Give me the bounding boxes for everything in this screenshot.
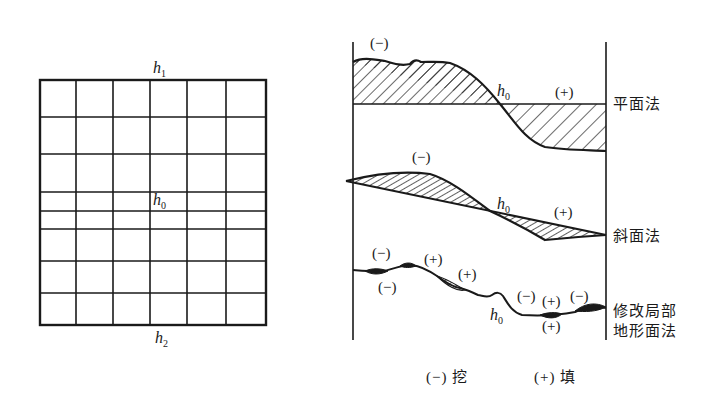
subscript: 0	[498, 315, 503, 326]
local-method-label-line1: 修改局部	[613, 304, 677, 319]
subscript: 1	[161, 68, 166, 79]
plane-cut-sign: (−)	[370, 36, 388, 51]
local-h0-label: h0	[490, 307, 503, 326]
local-sign-2: (−)	[378, 280, 396, 295]
slope-cut-sign: (−)	[412, 150, 430, 165]
local-sign-7: (−)	[570, 289, 588, 304]
local-sign-4: (+)	[458, 267, 476, 282]
h-symbol: h	[497, 82, 505, 99]
subscript: 2	[163, 338, 168, 349]
h-symbol: h	[153, 191, 161, 208]
slope-method-label: 斜面法	[613, 229, 661, 244]
local-sign-5: (−)	[517, 289, 535, 304]
legend-fill: (+) 填	[534, 370, 576, 385]
subscript: 0	[161, 200, 166, 211]
local-sign-3: (+)	[424, 252, 442, 267]
plane-method-profile	[353, 59, 606, 151]
local-sign-1: (−)	[372, 246, 390, 261]
h-symbol: h	[155, 329, 163, 346]
plane-fill-sign: (+)	[555, 85, 573, 100]
legend-cut: (−) 挖	[426, 370, 468, 385]
grid-label-h1: h1	[153, 60, 166, 79]
diagram-canvas	[0, 0, 727, 411]
grid-label-h2: h2	[155, 330, 168, 349]
local-sign-8: (+)	[542, 319, 560, 334]
slope-fill-sign: (+)	[554, 205, 572, 220]
subscript: 0	[505, 204, 510, 215]
plane-h0-label: h0	[497, 83, 510, 102]
grid-label-h0: h0	[153, 192, 166, 211]
local-method-label-line2: 地形面法	[613, 324, 677, 339]
h-symbol: h	[153, 59, 161, 76]
plane-method-label: 平面法	[613, 97, 661, 112]
h-symbol: h	[490, 306, 498, 323]
slope-h0-label: h0	[497, 196, 510, 215]
h-symbol: h	[497, 195, 505, 212]
local-sign-6: (+)	[542, 294, 560, 309]
subscript: 0	[505, 91, 510, 102]
